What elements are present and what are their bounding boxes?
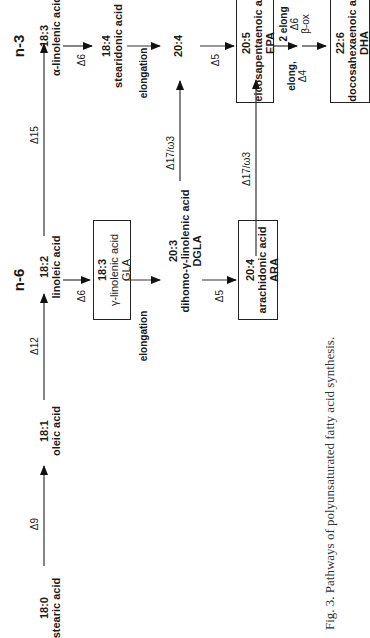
node-name: linoleic acid bbox=[50, 236, 62, 299]
enzyme-line: β-ox bbox=[300, 6, 311, 41]
node-name: arachidonic acid bbox=[256, 227, 268, 314]
enzyme-line: Δ4 bbox=[297, 61, 308, 90]
node-code: 18:1 bbox=[38, 406, 50, 456]
node-gla: 18:3 γ-linolenic acid GLA bbox=[96, 234, 132, 306]
enzyme-line: Δ6 bbox=[289, 6, 300, 41]
heading-n3: n-3 bbox=[10, 35, 27, 58]
node-abbr: GLA bbox=[120, 234, 132, 306]
node-code: 20:5 bbox=[240, 0, 252, 102]
node-name: oleic acid bbox=[50, 406, 62, 456]
node-code: 18:3 bbox=[96, 234, 108, 306]
node-code: 18:2 bbox=[38, 236, 50, 299]
node-alpha-linolenic-acid: 18:3 α-linolenic acid bbox=[38, 0, 62, 76]
node-dha: 22:6 docosahexaenoic acid DHA bbox=[334, 0, 370, 102]
enzyme-line: 2 elong bbox=[278, 6, 289, 41]
node-abbr: DGLA bbox=[191, 190, 203, 313]
node-code: 18:3 bbox=[38, 0, 50, 76]
node-name: α-linolenic acid bbox=[50, 0, 62, 76]
node-name: eicosapentaenoic acid bbox=[252, 0, 264, 102]
enzyme-2elong-d6-box: 2 elong Δ6 β-ox bbox=[278, 6, 311, 41]
node-name: stearidonic acid bbox=[112, 4, 124, 88]
enzyme-d17-dgla: Δ17/ω3 bbox=[165, 136, 176, 170]
node-name: docosahexaenoic acid bbox=[346, 0, 358, 102]
enzyme-d6-n6: Δ6 bbox=[76, 290, 87, 302]
node-name: stearic acid bbox=[50, 578, 62, 638]
node-code: 18:4 bbox=[100, 4, 112, 88]
node-code: 20:3 bbox=[167, 190, 179, 313]
enzyme-d9: Δ9 bbox=[29, 518, 40, 530]
node-abbr: DHA bbox=[358, 0, 370, 102]
enzyme-d17-ara: Δ17/ω3 bbox=[241, 152, 252, 186]
enzyme-d5-n3: Δ5 bbox=[210, 54, 221, 66]
enzyme-elongation-n6: elongation bbox=[138, 311, 149, 362]
enzyme-line: elong, bbox=[286, 61, 297, 90]
node-name: dihomo-γ-linolenic acid bbox=[179, 190, 191, 313]
node-code: 20:4 bbox=[244, 227, 256, 314]
node-code: 20:4 bbox=[172, 35, 184, 57]
enzyme-d6-n3: Δ6 bbox=[76, 54, 87, 66]
node-abbr: EPA bbox=[264, 0, 276, 102]
node-epa: 20:5 eicosapentaenoic acid EPA bbox=[240, 0, 276, 102]
node-oleic-acid: 18:1 oleic acid bbox=[38, 406, 62, 456]
enzyme-elong-d4: elong, Δ4 bbox=[286, 61, 308, 90]
node-linoleic-acid: 18:2 linoleic acid bbox=[38, 236, 62, 299]
enzyme-d5-n6: Δ5 bbox=[214, 290, 225, 302]
node-stearidonic-acid: 18:4 stearidonic acid bbox=[100, 4, 124, 88]
enzyme-d12: Δ12 bbox=[29, 337, 40, 355]
figure-caption: Fig. 3. Pathways of polyunsaturated fatt… bbox=[322, 337, 338, 630]
enzyme-elongation-n3: elongation bbox=[138, 48, 149, 99]
enzyme-d15: Δ15 bbox=[29, 126, 40, 144]
node-20-4-n3: 20:4 bbox=[172, 35, 184, 57]
node-ara: 20:4 arachidonic acid ARA bbox=[244, 227, 280, 314]
node-abbr: ARA bbox=[268, 227, 280, 314]
node-code: 22:6 bbox=[334, 0, 346, 102]
node-name: γ-linolenic acid bbox=[108, 234, 120, 306]
node-code: 18:0 bbox=[38, 578, 50, 638]
node-stearic-acid: 18:0 stearic acid bbox=[38, 578, 62, 638]
heading-n6: n-6 bbox=[10, 269, 27, 292]
node-dgla: 20:3 dihomo-γ-linolenic acid DGLA bbox=[167, 190, 203, 313]
